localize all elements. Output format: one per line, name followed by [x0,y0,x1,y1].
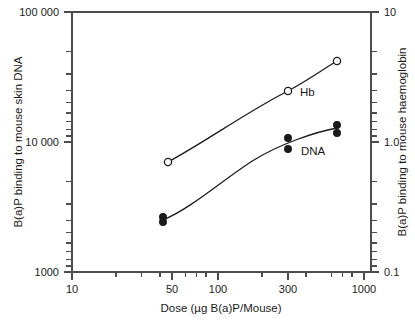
right-axis-ticks [371,12,379,272]
dose-response-plot: 100 000 10 000 1000 10 1.0 0.1 10 50 100… [0,0,415,320]
y2-axis-title: B(a)P binding to mouse haemoglobin [396,47,408,236]
data-point [160,219,167,226]
data-curves [163,61,337,220]
x-tick-label-100: 100 [209,283,227,295]
right-tick-label-10: 10 [384,6,396,18]
x-tick-label-1000: 1000 [352,283,376,295]
x-tick-label-50: 50 [166,283,178,295]
left-tick-label-10000: 10 000 [25,136,59,148]
data-point [333,57,340,64]
y-axis-title: B(a)P binding to mouse skin DNA [12,56,24,227]
data-point [285,146,292,153]
series-label-dna: DNA [301,145,326,157]
plot-frame [72,12,371,272]
series-label-hb: Hb [300,86,315,98]
x-tick-label-10: 10 [66,283,78,295]
x-axis-ticks [72,272,364,280]
left-axis-ticks [64,12,72,272]
x-axis-title: Dose (µg B(a)P/Mouse) [160,302,281,314]
left-tick-label-100000: 100 000 [19,6,59,18]
left-tick-label-1000: 1000 [35,266,59,278]
dna-curve [163,128,337,220]
data-point [334,130,341,137]
data-point [284,87,291,94]
right-tick-label-0.1: 0.1 [384,266,399,278]
chart-figure: 100 000 10 000 1000 10 1.0 0.1 10 50 100… [0,0,415,320]
data-point [334,122,341,129]
x-tick-label-300: 300 [279,283,297,295]
data-point [164,158,171,165]
dna-data-points [160,122,341,226]
data-point [285,135,292,142]
